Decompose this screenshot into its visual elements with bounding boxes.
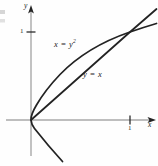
line-label-y-equals-x: y = x xyxy=(83,70,102,79)
curve-label-text: x = y xyxy=(54,39,73,49)
curve-label-x-equals-y-squared: x = y2 xyxy=(54,39,76,48)
parabola-curve xyxy=(31,24,157,162)
x-tick-label-1: 1 xyxy=(128,125,132,132)
y-axis-label: y xyxy=(24,2,27,10)
plot-canvas xyxy=(0,0,158,166)
curve-label-exponent: 2 xyxy=(73,38,76,44)
identity-line xyxy=(31,9,157,120)
y-tick-label-1: 1 xyxy=(20,28,24,35)
x-axis-label: x xyxy=(148,121,151,129)
math-figure: x = y2 y = x y x 1 1 xyxy=(0,0,158,166)
